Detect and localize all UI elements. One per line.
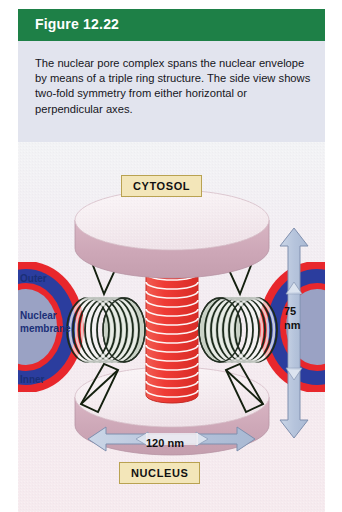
central-transporter-pore (146, 257, 198, 403)
figure-root: Figure 12.22 The nuclear pore complex sp… (0, 0, 342, 512)
compartment-label-cytosol: CYTOSOL (121, 175, 202, 197)
width-dimension-value: 120 nm (146, 437, 184, 449)
figure-caption-text: The nuclear pore complex spans the nucle… (35, 56, 313, 117)
figure-header-band: Figure 12.22 (18, 9, 325, 41)
figure-caption-block: The nuclear pore complex spans the nucle… (18, 41, 325, 142)
ring-disk-cytoplasmic (75, 190, 269, 278)
membrane-name-label-line1: Nuclear (20, 310, 57, 321)
membrane-name-label-line2: membrane (20, 323, 71, 334)
spoke-ring-right (199, 298, 277, 362)
spoke-ring-left (67, 298, 145, 362)
diagram-panel: CYTOSOL NUCLEUS Outer Nuclear membrane I… (18, 142, 325, 512)
membrane-outer-label: Outer (20, 273, 47, 284)
height-dimension-value: 75 (284, 305, 296, 317)
height-dimension-unit: nm (284, 319, 301, 331)
compartment-label-nucleus: NUCLEUS (119, 462, 200, 484)
membrane-inner-label: Inner (20, 374, 44, 385)
figure-number-label: Figure 12.22 (35, 16, 119, 32)
